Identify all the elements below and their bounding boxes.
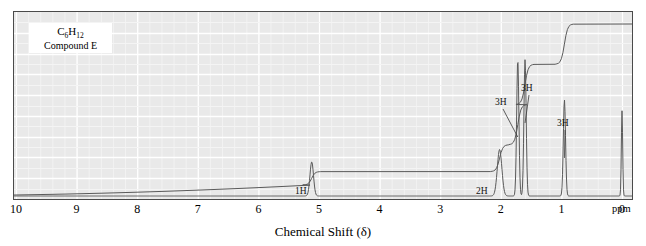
leader-line <box>564 130 565 158</box>
leader-line <box>503 109 518 137</box>
compound-label-box: C6H12 Compound E <box>29 23 112 53</box>
x-tick-2: 2 <box>498 202 504 217</box>
integration-label-2h-1: 2H <box>476 186 488 196</box>
x-tick-7: 7 <box>195 202 201 217</box>
x-tick-8: 8 <box>134 202 140 217</box>
x-axis-title: Chemical Shift (δ) <box>0 224 646 240</box>
x-tick-10: 10 <box>10 202 22 217</box>
compound-name: Compound E <box>44 40 97 51</box>
x-axis: ppm 109876543210 <box>0 200 646 222</box>
integration-label-3h-2: 3H <box>495 97 507 107</box>
integration-label-3h-3: 3H <box>521 83 533 93</box>
integration-label-1h-0: 1H <box>295 186 307 196</box>
x-tick-4: 4 <box>377 202 383 217</box>
molecular-formula: C6H12 <box>57 25 84 41</box>
x-tick-9: 9 <box>74 202 80 217</box>
spectrum-line <box>14 60 632 196</box>
x-tick-3: 3 <box>437 202 443 217</box>
x-tick-5: 5 <box>316 202 322 217</box>
nmr-figure: C6H12 Compound E 1H2H3H3H3H ppm 10987654… <box>0 0 646 246</box>
x-tick-1: 1 <box>558 202 564 217</box>
x-tick-6: 6 <box>255 202 261 217</box>
x-tick-0: 0 <box>619 202 625 217</box>
integration-label-3h-4: 3H <box>557 118 569 128</box>
annotation-leader-lines <box>503 95 565 158</box>
